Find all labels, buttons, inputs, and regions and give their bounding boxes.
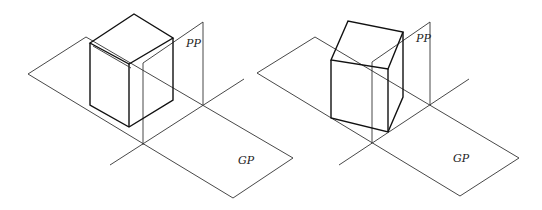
ground-plane xyxy=(28,37,293,198)
gp-label: GP xyxy=(238,154,255,167)
cube xyxy=(90,14,173,127)
right-figure: PP GP xyxy=(257,21,519,196)
pp-label: PP xyxy=(415,32,431,45)
perspective-diagram: PP GP PP GP xyxy=(0,0,542,210)
rotated-cube xyxy=(331,21,403,132)
pp-label: PP xyxy=(185,37,201,50)
ground-line xyxy=(110,79,244,165)
ground-line xyxy=(339,79,469,165)
left-figure: PP GP xyxy=(28,14,293,198)
gp-label: GP xyxy=(453,152,470,165)
